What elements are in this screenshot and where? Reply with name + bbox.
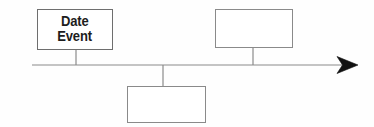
event-box-bottom-middle[interactable]	[127, 86, 206, 123]
event-box-date-event[interactable]: Date Event	[37, 9, 113, 50]
timeline-diagram: Date Event	[0, 0, 374, 127]
event-box-label-event: Event	[58, 29, 93, 44]
event-box-top-right[interactable]	[215, 9, 293, 48]
event-box-label-date: Date	[61, 14, 88, 29]
